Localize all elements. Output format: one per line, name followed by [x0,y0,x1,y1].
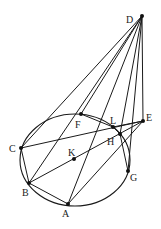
label-B: B [22,187,29,198]
label-K: K [68,147,76,158]
segment-DC [21,16,142,148]
point-B [27,181,31,185]
segment-CB [21,148,29,183]
label-G: G [130,172,137,183]
segments-group [21,16,143,204]
label-H: H [107,136,114,147]
segment-AE [68,121,143,204]
point-H [118,132,122,136]
diagram-canvas: DEFLHCKBGA [0,0,161,229]
point-D [140,14,144,18]
segment-DG [128,16,142,171]
segment-DE [142,16,143,121]
label-L: L [110,115,116,126]
point-F [79,112,83,116]
label-A: A [62,208,70,219]
label-E: E [146,112,152,123]
point-C [19,146,23,150]
label-F: F [75,119,81,130]
label-D: D [126,14,133,25]
point-A [66,202,70,206]
label-C: C [9,143,16,154]
geometry-diagram: DEFLHCKBGA [0,0,161,229]
point-E [141,119,145,123]
segment-BE [29,121,143,183]
segment-FL [81,114,113,127]
